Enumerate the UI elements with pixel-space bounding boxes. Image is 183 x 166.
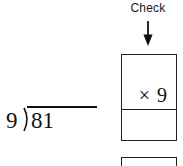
multiplier-text: × 9 [139, 85, 168, 105]
check-box-secondary-cell[interactable] [122, 158, 176, 166]
check-box-secondary[interactable] [121, 157, 177, 166]
dividend-text: 81 [31, 108, 54, 133]
check-label: Check [114, 1, 182, 16]
check-box-primary-lower-cell[interactable] [122, 110, 176, 139]
down-arrow-icon [134, 20, 162, 48]
check-box-primary[interactable]: × 9 [121, 54, 177, 141]
division-check-worksheet: Check 9 81 × 9 [0, 0, 183, 166]
division-bracket-icon [24, 108, 27, 131]
long-division-expression: 9 81 [0, 98, 105, 138]
check-box-primary-upper-cell[interactable]: × 9 [122, 55, 176, 110]
divisor-text: 9 [6, 108, 18, 133]
